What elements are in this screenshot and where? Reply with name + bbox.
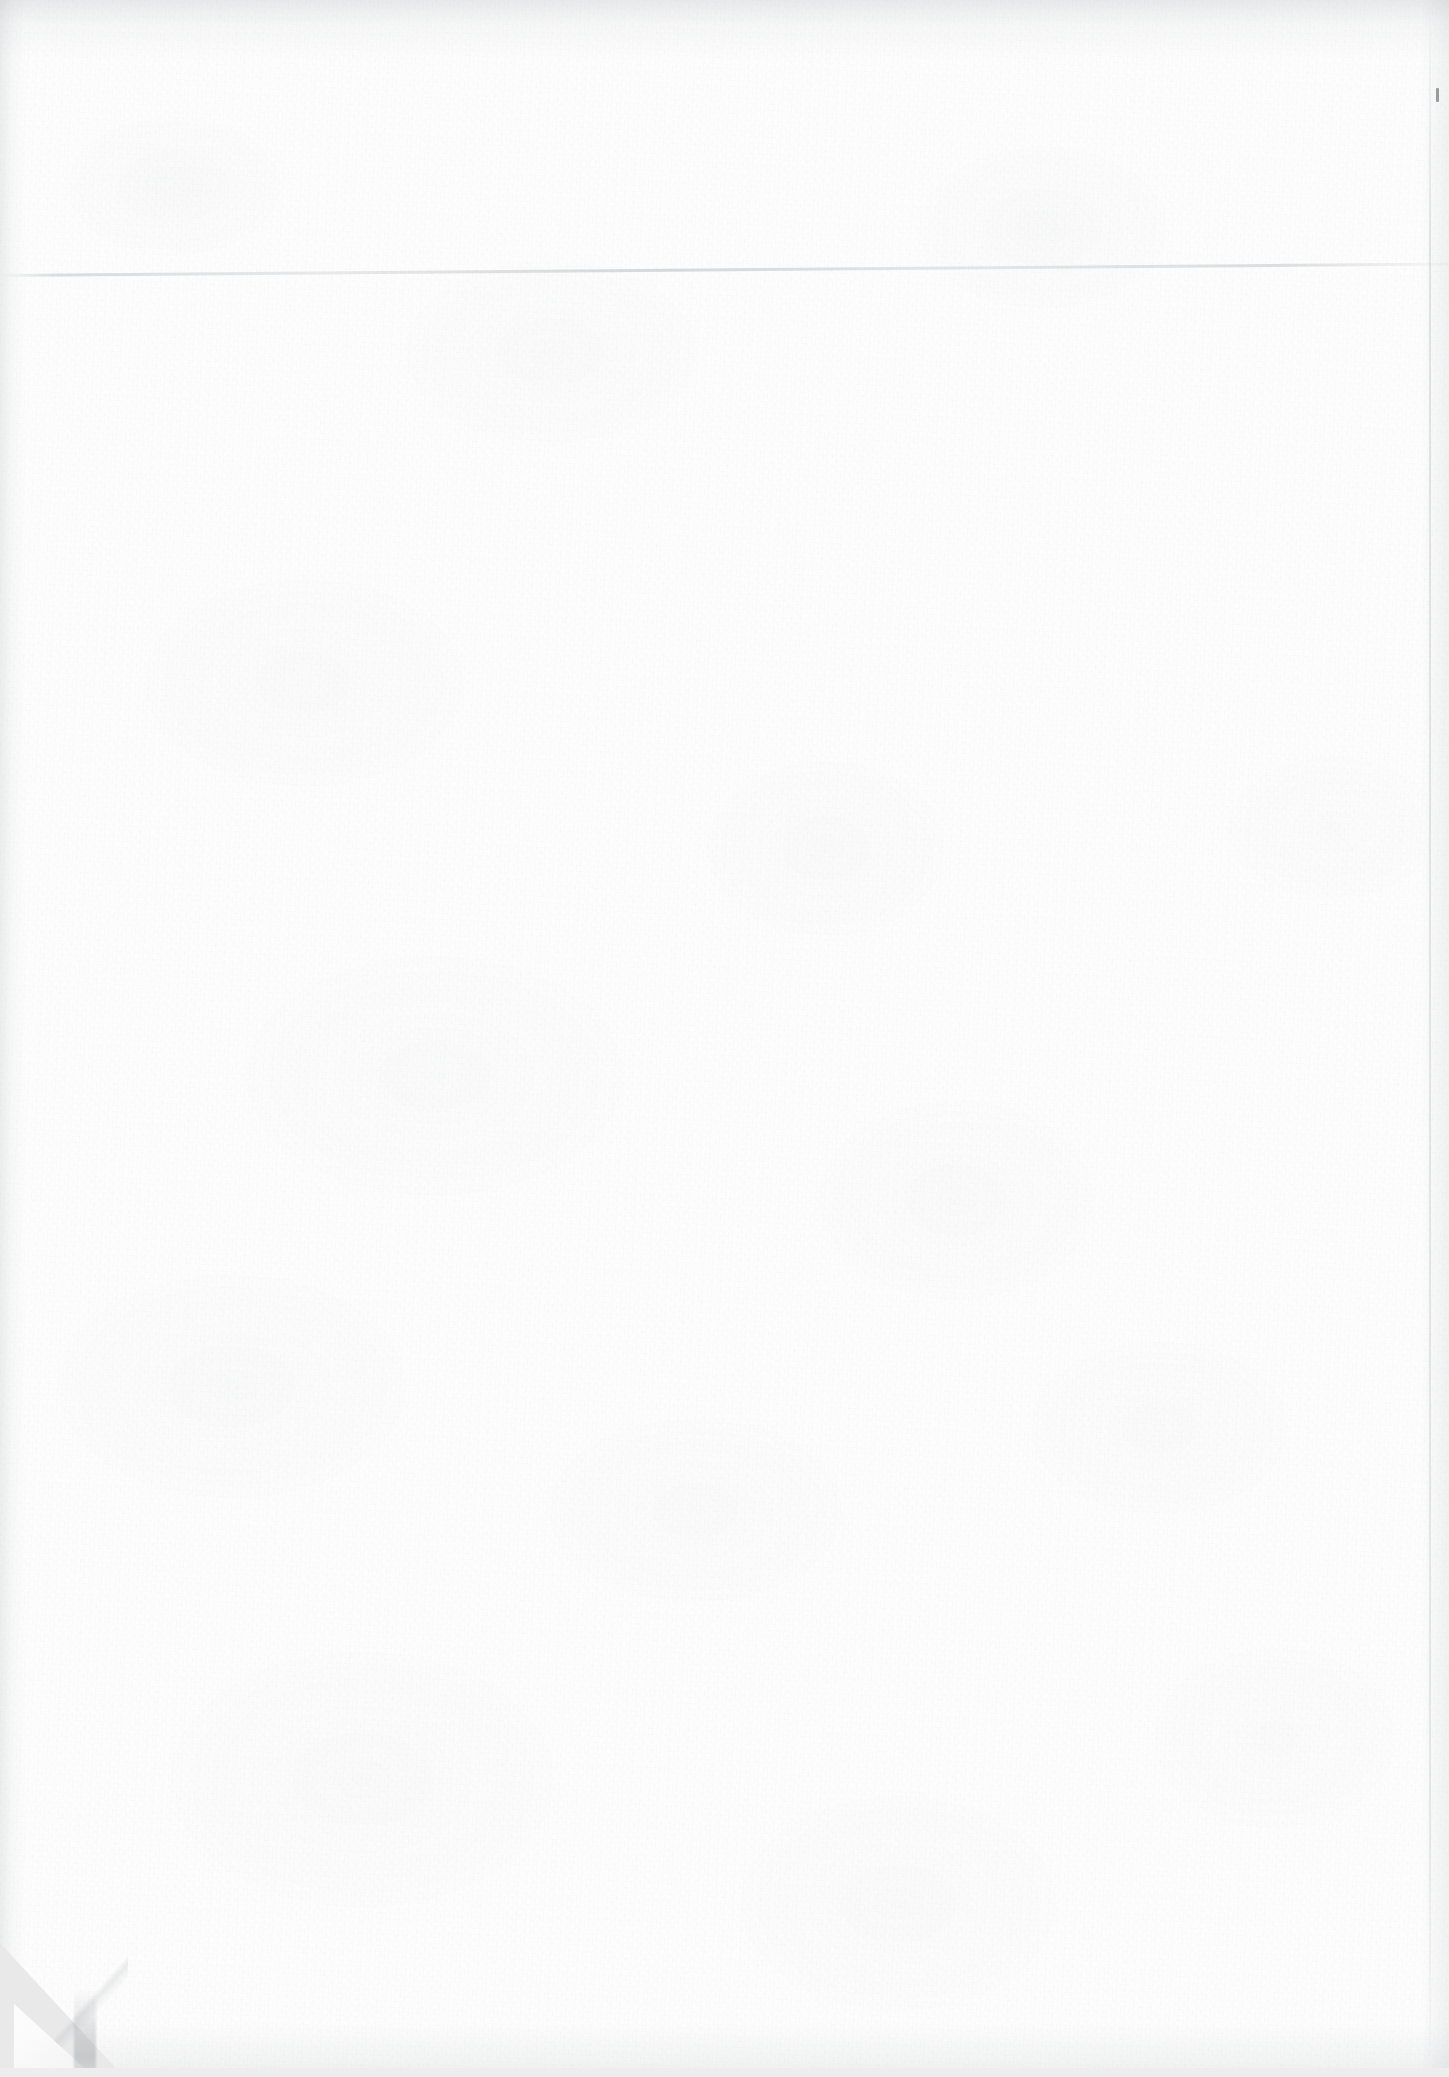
top-edge-shading: [0, 0, 1449, 60]
horizontal-paper-crease: [0, 263, 1449, 277]
right-trim-line: [1429, 0, 1431, 2069]
paper-mottling: [0, 0, 1449, 2069]
paper-grain-texture: [0, 0, 1449, 2069]
ink-speck: [1436, 88, 1439, 102]
scanned-page-canvas: [0, 0, 1449, 2077]
page-content-area: [0, 0, 1449, 2069]
bottom-edge-shading: [0, 2023, 1449, 2069]
right-edge-shading: [1421, 0, 1449, 2069]
left-edge-shading: [0, 0, 26, 2069]
scanner-backdrop-strip: [0, 2068, 1449, 2077]
paper-sheet: [0, 0, 1449, 2069]
